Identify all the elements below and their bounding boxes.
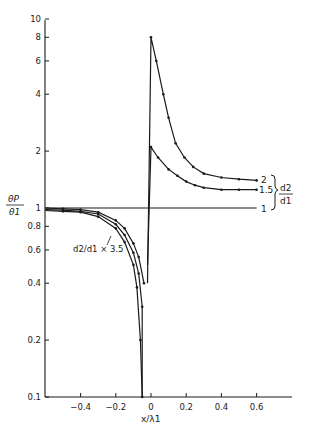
x-axis-label: x/λ1	[141, 414, 160, 424]
x-tick-label: 0.2	[179, 402, 193, 412]
data-point	[123, 227, 126, 230]
data-point	[255, 179, 258, 182]
data-point	[143, 282, 146, 285]
data-point	[132, 264, 135, 267]
data-point	[115, 227, 118, 230]
curve-label-2: 2	[261, 175, 267, 185]
data-point	[62, 210, 65, 213]
data-point	[155, 60, 158, 63]
x-tick-label: 0.6	[250, 402, 264, 412]
data-point	[203, 172, 206, 175]
data-point	[183, 156, 186, 159]
data-point	[220, 188, 223, 191]
y-tick-label: 0.6	[27, 245, 41, 255]
series-line	[45, 210, 142, 307]
data-point	[238, 178, 241, 181]
x-tick-label: −0.4	[70, 402, 91, 412]
x-tick-label: −0.2	[105, 402, 126, 412]
y-label-denominator: θ1	[9, 207, 20, 217]
data-point	[97, 213, 100, 216]
curve-label-1: 1	[261, 204, 267, 214]
data-point	[150, 36, 153, 39]
data-point	[123, 234, 126, 237]
y-tick-label: 6	[36, 56, 41, 66]
curves	[45, 36, 258, 398]
data-point	[123, 241, 126, 244]
y-tick-label: 10	[30, 14, 41, 24]
data-point	[132, 251, 135, 254]
data-point	[167, 117, 170, 120]
data-point	[139, 339, 142, 342]
y-tick-label: 1	[36, 203, 41, 213]
bracket-label-denominator: d1	[280, 196, 291, 206]
series-line	[148, 37, 257, 283]
data-point	[174, 142, 177, 145]
data-point	[136, 286, 139, 289]
chart: 10864210.80.60.40.20.1 −0.4−0.200.20.40.…	[0, 0, 310, 441]
y-tick-label: 2	[36, 146, 41, 156]
data-point	[185, 180, 188, 183]
data-point	[132, 242, 135, 245]
data-point	[203, 186, 206, 189]
curve-label-1-5: 1.5	[259, 185, 273, 195]
data-point	[137, 256, 140, 259]
series-line	[45, 211, 142, 398]
data-point	[192, 166, 195, 169]
y-tick-label: 8	[36, 32, 41, 42]
data-point	[97, 215, 100, 218]
data-point	[157, 156, 160, 159]
y-tick-label: 0.2	[27, 335, 41, 345]
data-point	[167, 168, 170, 171]
data-point	[150, 146, 153, 149]
data-point	[162, 93, 165, 96]
data-point	[79, 211, 82, 214]
bracket-label-numerator: d2	[280, 183, 291, 193]
x-ticks: −0.4−0.200.20.40.6	[70, 393, 263, 412]
y-tick-label: 4	[36, 89, 41, 99]
data-point	[115, 219, 118, 222]
y-tick-label: 0.1	[27, 392, 41, 402]
y-label-numerator: θP	[8, 194, 20, 204]
data-point	[194, 184, 197, 187]
data-point	[255, 188, 258, 191]
data-point	[220, 176, 223, 179]
series-line	[148, 147, 257, 265]
data-point	[176, 175, 179, 178]
x-tick-label: 0.4	[215, 402, 229, 412]
y-tick-label: 0.4	[27, 278, 41, 288]
data-point	[137, 272, 140, 275]
data-point	[115, 223, 118, 226]
annotation-3-5: d2/d1 × 3.5	[73, 244, 124, 254]
y-tick-label: 0.8	[27, 221, 41, 231]
y-axis-label: θP θ1	[6, 194, 24, 217]
x-tick-label: 0	[148, 402, 153, 412]
data-point	[238, 188, 241, 191]
